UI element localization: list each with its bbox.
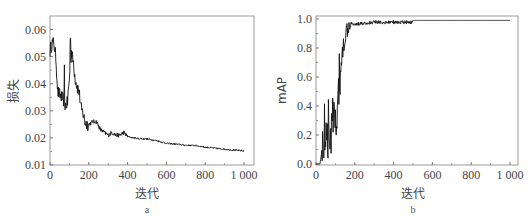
x-tick-label: 1 000 bbox=[497, 168, 524, 182]
data-line bbox=[316, 20, 510, 164]
y-tick-label: 0.03 bbox=[25, 104, 46, 118]
map-chart: 02004006008001 0000.00.20.40.60.81.0迭代mA… bbox=[264, 0, 529, 217]
data-line bbox=[50, 38, 244, 152]
x-tick-label: 600 bbox=[423, 168, 441, 182]
x-tick-label: 400 bbox=[119, 168, 137, 182]
x-tick-label: 1 000 bbox=[231, 168, 258, 182]
loss-chart: 02004006008001 0000.010.020.030.040.050.… bbox=[0, 0, 265, 217]
x-tick-label: 800 bbox=[196, 168, 214, 182]
y-tick-label: 0.6 bbox=[297, 70, 312, 84]
subfigure-label: a bbox=[145, 204, 150, 215]
x-tick-label: 200 bbox=[80, 168, 98, 182]
x-axis-title: 迭代 bbox=[135, 187, 159, 201]
y-tick-label: 0.01 bbox=[25, 158, 46, 172]
subfigure-label: b bbox=[411, 204, 416, 215]
y-tick-label: 0.05 bbox=[25, 50, 46, 64]
y-tick-label: 0.0 bbox=[297, 157, 312, 171]
y-tick-label: 0.06 bbox=[25, 23, 46, 37]
map-chart-plot: 02004006008001 0000.00.20.40.60.81.0迭代mA… bbox=[264, 0, 529, 217]
x-tick-label: 600 bbox=[157, 168, 175, 182]
y-tick-label: 0.4 bbox=[297, 99, 312, 113]
y-tick-label: 0.02 bbox=[25, 131, 46, 145]
y-axis-title: mAP bbox=[275, 77, 289, 104]
x-tick-label: 800 bbox=[462, 168, 480, 182]
plot-frame bbox=[316, 16, 518, 165]
plot-frame bbox=[50, 16, 254, 165]
x-tick-label: 0 bbox=[47, 168, 53, 182]
y-tick-label: 0.8 bbox=[297, 41, 312, 55]
y-tick-label: 0.2 bbox=[297, 128, 312, 142]
y-axis-title: 损失 bbox=[6, 79, 21, 103]
x-tick-label: 0 bbox=[313, 168, 319, 182]
x-tick-label: 400 bbox=[385, 168, 403, 182]
y-tick-label: 1.0 bbox=[297, 12, 312, 26]
loss-chart-plot: 02004006008001 0000.010.020.030.040.050.… bbox=[0, 0, 265, 217]
x-tick-label: 200 bbox=[346, 168, 364, 182]
y-tick-label: 0.04 bbox=[25, 77, 46, 91]
x-axis-title: 迭代 bbox=[401, 187, 425, 201]
